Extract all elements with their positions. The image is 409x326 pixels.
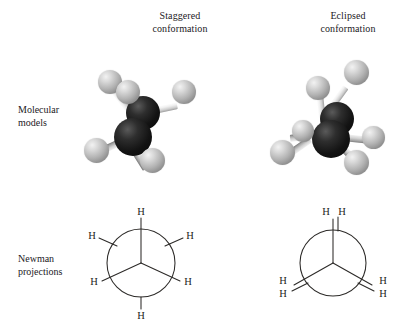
heading-staggered-line2: conformation: [120, 23, 240, 36]
molecular-model-staggered: [78, 52, 218, 182]
hydrogen-label: H: [88, 230, 96, 241]
hydrogen-label: H: [279, 288, 287, 299]
hydrogen-label: H: [322, 206, 330, 217]
hydrogen-label: H: [279, 275, 287, 286]
hydrogen-atom: [172, 80, 196, 104]
hydrogen-label: H: [90, 276, 98, 287]
hydrogen-label: H: [137, 206, 145, 217]
hydrogen-atom: [116, 80, 140, 104]
hydrogen-atom: [140, 148, 165, 173]
hydrogen-label: H: [379, 275, 387, 286]
hydrogen-atom: [344, 60, 369, 85]
hydrogen-atom: [270, 140, 295, 165]
hydrogen-label: H: [186, 230, 194, 241]
hydrogen-atom: [84, 138, 109, 163]
hydrogen-atom: [306, 76, 330, 100]
heading-eclipsed-line2: conformation: [288, 23, 408, 36]
conformations-figure: Staggered conformation Eclipsed conforma…: [0, 0, 409, 326]
hydrogen-atom: [344, 150, 369, 175]
hydrogen-atom: [362, 126, 385, 149]
hydrogen-atom: [292, 120, 314, 142]
carbon-atom: [312, 120, 350, 158]
hydrogen-label: H: [137, 310, 145, 321]
heading-staggered-line1: Staggered: [120, 10, 240, 23]
hydrogen-label: H: [338, 206, 346, 217]
column-heading-eclipsed: Eclipsed conformation: [288, 10, 408, 35]
heading-eclipsed-line1: Eclipsed: [288, 10, 408, 23]
hydrogen-label: H: [184, 276, 192, 287]
newman-projection-staggered: H H H H H H: [66, 205, 216, 321]
hydrogen-label: H: [379, 288, 387, 299]
newman-projection-eclipsed: H H H H H H: [258, 205, 408, 321]
molecular-model-eclipsed: [258, 52, 398, 182]
column-heading-staggered: Staggered conformation: [120, 10, 240, 35]
